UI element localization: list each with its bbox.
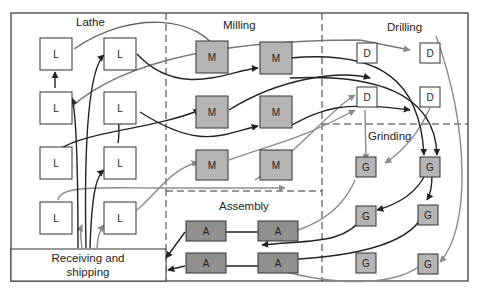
svg-text:L: L (53, 103, 59, 114)
machine-assembly: A (186, 221, 226, 241)
svg-text:D: D (363, 92, 370, 103)
svg-text:G: G (424, 259, 432, 270)
machine-grinding: G (418, 205, 438, 225)
machine-grinding: G (356, 157, 376, 177)
svg-text:L: L (53, 49, 59, 60)
machine-milling: M (196, 96, 228, 128)
svg-text:M: M (272, 107, 280, 118)
dept-label-drilling: Drilling (387, 21, 422, 33)
machine-milling: M (260, 96, 292, 128)
machine-lathe: L (40, 147, 72, 179)
svg-text:G: G (426, 162, 434, 173)
dept-label-assembly: Assembly (219, 200, 269, 212)
machine-lathe: L (104, 147, 136, 179)
machine-drilling: D (357, 87, 377, 107)
machine-milling: M (260, 150, 292, 180)
svg-text:A: A (203, 226, 210, 237)
machine-drilling: D (420, 87, 440, 107)
machine-grinding: G (356, 253, 376, 273)
svg-text:M: M (208, 160, 216, 171)
machine-lathe: L (104, 202, 136, 234)
svg-text:M: M (272, 160, 280, 171)
svg-text:D: D (363, 48, 370, 59)
grinding-machines: G G G G G G (356, 157, 440, 274)
svg-text:L: L (117, 213, 123, 224)
machine-milling: M (196, 41, 228, 73)
dept-label-lathe: Lathe (76, 16, 105, 28)
machine-lathe: L (40, 38, 72, 70)
machine-drilling: D (357, 43, 377, 63)
dept-label-receiving-1: Receiving and (52, 252, 125, 264)
svg-text:A: A (203, 258, 210, 269)
assembly-machines: A A A A (186, 221, 298, 273)
svg-text:A: A (275, 226, 282, 237)
svg-text:D: D (426, 48, 433, 59)
svg-text:G: G (424, 210, 432, 221)
svg-text:L: L (117, 49, 123, 60)
svg-text:M: M (208, 107, 216, 118)
plant-outline (11, 13, 468, 281)
machine-assembly: A (258, 221, 298, 241)
machine-grinding: G (418, 254, 438, 274)
machine-drilling: D (420, 43, 440, 63)
machine-grinding: G (356, 206, 376, 226)
svg-text:M: M (208, 52, 216, 63)
svg-text:A: A (275, 258, 282, 269)
machine-lathe: L (40, 202, 72, 234)
milling-machines: M M M M M M (196, 41, 292, 180)
machine-assembly: A (258, 253, 298, 273)
dept-label-receiving-2: shipping (67, 266, 110, 278)
machine-grinding: G (420, 157, 440, 177)
machine-milling: M (196, 150, 228, 180)
lathe-machines: L L L L L L L L (40, 38, 136, 234)
svg-text:D: D (426, 92, 433, 103)
svg-text:L: L (53, 158, 59, 169)
svg-text:L: L (117, 158, 123, 169)
dept-label-grinding: Grinding (368, 130, 411, 142)
svg-text:G: G (362, 162, 370, 173)
drilling-machines: D D D D (357, 43, 440, 107)
machine-assembly: A (186, 253, 226, 273)
svg-text:M: M (272, 53, 280, 64)
svg-text:L: L (117, 103, 123, 114)
svg-text:G: G (362, 258, 370, 269)
svg-text:G: G (362, 211, 370, 222)
machine-lathe: L (104, 38, 136, 70)
dept-label-milling: Milling (223, 19, 256, 31)
machine-lathe: L (104, 92, 136, 124)
svg-text:L: L (53, 213, 59, 224)
machine-milling: M (260, 42, 292, 74)
machine-lathe: L (40, 92, 72, 124)
process-layout-diagram: Lathe Milling Drilling Grinding Assembly… (0, 0, 479, 292)
